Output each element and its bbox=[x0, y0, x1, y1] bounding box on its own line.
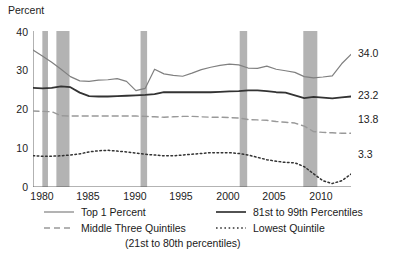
end-label-top1: 34.0 bbox=[358, 47, 378, 59]
legend-swatch-lowest bbox=[216, 223, 246, 233]
x-tick-2000: 2000 bbox=[208, 190, 248, 202]
legend-row-1: Top 1 Percent 81st to 99th Percentiles bbox=[0, 206, 407, 218]
legend-swatch-81to99 bbox=[216, 207, 246, 217]
plot-area bbox=[33, 31, 351, 187]
legend-item-81to99: 81st to 99th Percentiles bbox=[216, 206, 363, 218]
legend-swatch-top1 bbox=[44, 207, 74, 217]
end-label-lowest: 3.3 bbox=[358, 148, 373, 160]
x-tick-1995: 1995 bbox=[161, 190, 201, 202]
legend-label-lowest: Lowest Quintile bbox=[253, 222, 325, 234]
legend-label-middle: Middle Three Quintiles bbox=[81, 222, 186, 234]
x-tick-1985: 1985 bbox=[68, 190, 108, 202]
legend-label-81to99: 81st to 99th Percentiles bbox=[253, 206, 363, 218]
y-axis-title: Percent bbox=[8, 4, 44, 16]
x-tick-2005: 2005 bbox=[254, 190, 294, 202]
legend-item-lowest: Lowest Quintile bbox=[216, 222, 325, 234]
chart-svg bbox=[33, 31, 351, 187]
end-label-middle: 13.8 bbox=[358, 113, 378, 125]
x-tick-2010: 2010 bbox=[301, 190, 341, 202]
y-tick-10: 10 bbox=[6, 142, 28, 154]
x-tick-1990: 1990 bbox=[115, 190, 155, 202]
y-tick-40: 40 bbox=[6, 26, 28, 38]
legend-row-2: Middle Three Quintiles Lowest Quintile bbox=[0, 222, 407, 234]
chart-legend: Top 1 Percent 81st to 99th Percentiles M… bbox=[0, 206, 407, 249]
legend-label-top1: Top 1 Percent bbox=[81, 206, 146, 218]
axis-ticks bbox=[33, 31, 323, 187]
legend-item-top1: Top 1 Percent bbox=[44, 206, 216, 218]
y-tick-30: 30 bbox=[6, 64, 28, 76]
y-tick-20: 20 bbox=[6, 103, 28, 115]
x-tick-1980: 1980 bbox=[22, 190, 62, 202]
legend-swatch-middle bbox=[44, 223, 74, 233]
recession-bands bbox=[42, 31, 317, 187]
legend-item-middle: Middle Three Quintiles bbox=[44, 222, 216, 234]
end-label-81to99: 23.2 bbox=[358, 89, 378, 101]
chart-container: Percent 40 30 20 10 0 1980 1985 1990 199… bbox=[0, 0, 407, 268]
legend-sublabel-middle: (21st to 80th percentiles) bbox=[0, 237, 407, 249]
